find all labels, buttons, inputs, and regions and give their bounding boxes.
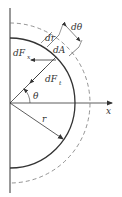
dtheta-ext-1	[59, 24, 63, 35]
theta-label: θ	[33, 91, 39, 101]
r-arrow	[10, 103, 63, 139]
dr-label: dr	[45, 33, 56, 43]
dA-label: dA	[53, 45, 66, 55]
r-label: r	[42, 114, 47, 124]
x-axis-label: x	[106, 106, 111, 116]
dFx-subscript: x	[27, 53, 31, 60]
dtheta-label: dθ	[71, 22, 83, 32]
theta-arc	[24, 89, 30, 103]
dtheta-ext-2	[79, 40, 82, 47]
dFt-arrow	[30, 68, 45, 83]
force-diagram: x r θ dθ dr dA dF x dF t	[0, 0, 122, 197]
dFt-subscript: t	[59, 79, 62, 86]
dFx-label: dF	[13, 48, 26, 58]
dFt-label: dF	[45, 74, 58, 84]
